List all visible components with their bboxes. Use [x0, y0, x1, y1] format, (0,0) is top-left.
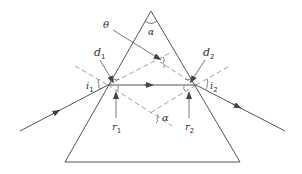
- d1-pointer: [100, 60, 112, 80]
- normals-angle-label: α: [162, 112, 169, 123]
- apex-angle-arc: [145, 21, 157, 24]
- d2-pointer: [192, 60, 205, 80]
- emergent-ray-arrow: [232, 104, 238, 107]
- r1-angle-mark: [117, 86, 118, 91]
- r1-label: r1: [112, 121, 121, 135]
- incident-ray: [20, 85, 108, 131]
- prism-diagram: α θ d1 d2 i1 i2 r1 r2 α: [0, 0, 302, 174]
- i2-angle-mark: [206, 79, 208, 89]
- d2-label: d2: [203, 46, 215, 61]
- i2-label: i2: [210, 80, 218, 94]
- r2-angle-mark: [184, 86, 185, 91]
- d1-angle-mark: [113, 79, 119, 80]
- theta-label: θ: [103, 19, 109, 30]
- apex-angle-label: α: [148, 27, 154, 37]
- normal-1-outer: [75, 66, 108, 85]
- theta-angle-mark: [163, 57, 165, 68]
- emergent-ray: [196, 85, 285, 131]
- normals-angle-mark: [156, 114, 159, 123]
- r2-label: r2: [185, 121, 194, 135]
- i1-label: i1: [86, 80, 94, 94]
- extension-2: [160, 62, 196, 85]
- d1-label: d1: [94, 46, 106, 61]
- incident-ray-arrow: [52, 112, 57, 115]
